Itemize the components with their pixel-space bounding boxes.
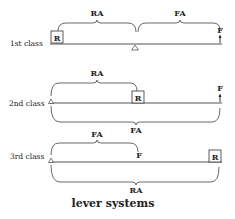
first-class-lever: 1st class R RA FA F (10, 8, 223, 50)
force-label: F (217, 25, 223, 35)
fulcrum-icon (132, 45, 139, 50)
force-label: F (136, 150, 142, 160)
force-arm-brace (51, 106, 220, 125)
fulcrum-icon (49, 158, 54, 163)
force-arm-label: FA (130, 125, 142, 135)
resistance-label: R (135, 93, 142, 103)
resistance-arm-label: RA (91, 68, 105, 78)
lever-diagram: 1st class R RA FA F 2nd class R RA FA F … (0, 0, 235, 219)
resistance-arm-brace (51, 80, 137, 96)
class-label: 3rd class (10, 152, 44, 161)
resistance-arm-brace (58, 20, 136, 32)
resistance-label: R (212, 152, 219, 162)
class-label: 2nd class (9, 99, 45, 108)
arrowhead-icon (219, 94, 222, 98)
diagram-title: lever systems (72, 197, 155, 210)
force-arm-brace (51, 140, 138, 155)
force-arm-label: FA (174, 8, 186, 18)
second-class-lever: 2nd class R RA FA F (9, 68, 223, 135)
resistance-arm-brace (51, 165, 219, 185)
arrowhead-icon (219, 35, 222, 39)
force-arm-label: FA (91, 129, 103, 139)
force-arm-brace (138, 20, 220, 32)
fulcrum-icon (49, 99, 54, 104)
resistance-arm-label: RA (91, 8, 105, 18)
force-label: F (217, 83, 223, 93)
third-class-lever: 3rd class R FA F RA (10, 129, 222, 195)
class-label: 1st class (10, 39, 43, 48)
resistance-label: R (54, 33, 61, 43)
resistance-arm-label: RA (130, 185, 144, 195)
